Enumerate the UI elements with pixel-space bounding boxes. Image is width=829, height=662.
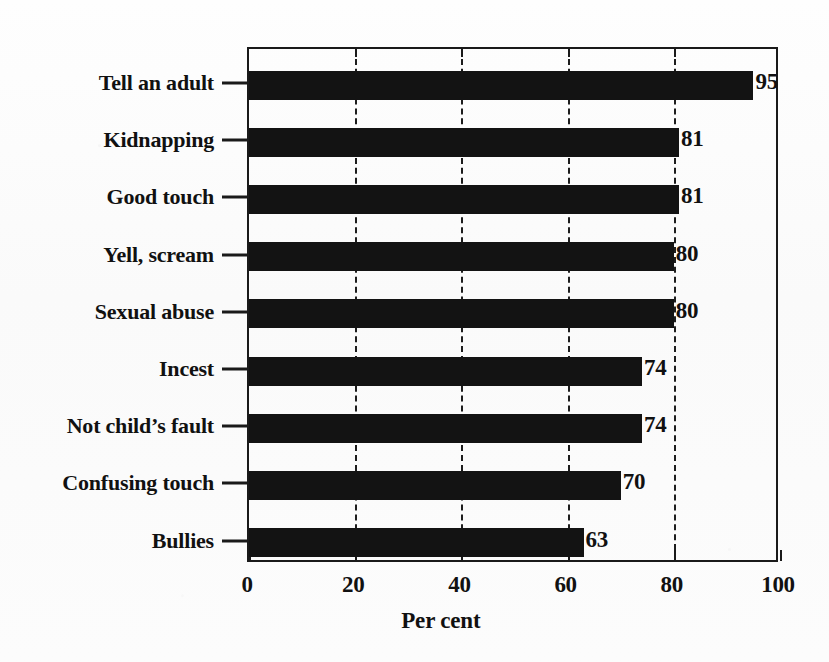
- x-tick-top-40: [461, 48, 463, 57]
- bar: [249, 299, 674, 328]
- category-tick: [222, 310, 247, 313]
- bar: [249, 71, 753, 100]
- x-tick-top-80: [674, 48, 676, 57]
- bar-value-label: 80: [676, 241, 698, 267]
- x-axis-tick-label: 80: [661, 572, 683, 598]
- x-tick-top-20: [355, 48, 357, 57]
- x-axis-tick-label: 20: [342, 572, 364, 598]
- x-axis-title: Per cent: [401, 608, 480, 634]
- category-tick: [222, 139, 247, 142]
- bar: [249, 185, 679, 214]
- bar: [249, 242, 674, 271]
- bar-value-label: 63: [586, 527, 608, 553]
- category-label: Incest: [159, 356, 214, 382]
- x-axis-tick-label: 0: [241, 572, 252, 598]
- plot-area: [247, 47, 778, 562]
- bar: [249, 471, 621, 500]
- category-label: Kidnapping: [103, 127, 214, 153]
- category-tick: [222, 82, 247, 85]
- bar-value-label: 95: [755, 69, 777, 95]
- category-label: Confusing touch: [62, 470, 214, 496]
- x-tick-80: [674, 550, 676, 561]
- category-label: Not child’s fault: [67, 413, 214, 439]
- x-tick-top-60: [568, 48, 570, 57]
- category-tick: [222, 482, 247, 485]
- x-tick-100: [780, 550, 782, 561]
- bar: [249, 528, 584, 557]
- bar: [249, 414, 642, 443]
- bar-value-label: 81: [681, 184, 703, 210]
- category-tick: [222, 368, 247, 371]
- bar-value-label: 80: [676, 298, 698, 324]
- category-label: Tell an adult: [99, 70, 214, 96]
- bar: [249, 357, 642, 386]
- bar-value-label: 74: [644, 413, 666, 439]
- category-label: Sexual abuse: [95, 299, 214, 325]
- bar: [249, 128, 679, 157]
- bar-value-label: 70: [623, 470, 645, 496]
- category-tick: [222, 539, 247, 542]
- x-axis-tick-label: 60: [554, 572, 576, 598]
- category-axis-labels: Tell an adultKidnappingGood touchYell, s…: [0, 0, 214, 662]
- category-label: Bullies: [152, 528, 214, 554]
- x-axis-tick-label: 40: [448, 572, 470, 598]
- bar-value-label: 74: [644, 355, 666, 381]
- category-tick: [222, 196, 247, 199]
- category-label: Yell, scream: [103, 242, 214, 268]
- category-tick: [222, 425, 247, 428]
- x-axis-tick-label: 100: [761, 572, 795, 598]
- bar-chart-figure: Tell an adultKidnappingGood touchYell, s…: [0, 0, 829, 662]
- category-label: Good touch: [107, 184, 214, 210]
- bar-value-label: 81: [681, 127, 703, 153]
- category-tick: [222, 253, 247, 256]
